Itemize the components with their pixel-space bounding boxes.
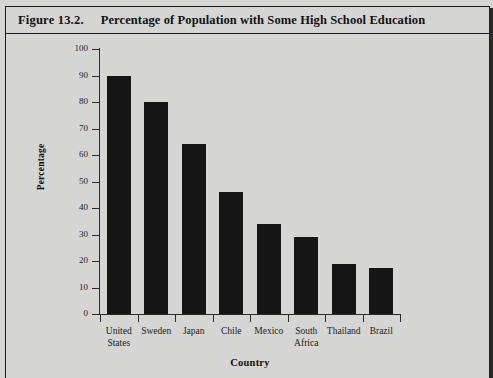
y-tick	[92, 208, 100, 209]
chart-canvas: Percentage 1009080706050403020100 United…	[0, 34, 493, 378]
y-tick-label: 30	[52, 230, 88, 240]
y-tick	[92, 314, 100, 315]
x-tick	[400, 315, 401, 322]
y-tick-label-text: 20	[54, 256, 88, 265]
y-tick-label-text: 30	[54, 230, 88, 239]
y-tick-label: 20	[52, 256, 88, 266]
bar	[182, 144, 206, 314]
figure-number: Figure 13.2.	[18, 13, 84, 28]
y-tick	[92, 102, 100, 103]
bar	[257, 224, 281, 314]
bar	[144, 102, 168, 314]
y-tick-label-text: 0	[54, 309, 88, 318]
x-tick-label-line: States	[94, 338, 144, 350]
x-tick	[250, 315, 251, 322]
y-tick-label-text: 100	[54, 44, 88, 53]
figure-panel: Figure 13.2. Percentage of Population wi…	[0, 0, 493, 378]
x-tick-label-line: Africa	[282, 338, 332, 350]
x-tick	[288, 315, 289, 322]
bar	[219, 192, 243, 314]
bars-container	[100, 49, 400, 314]
y-tick-label: 80	[52, 97, 88, 107]
x-tick	[138, 315, 139, 322]
x-tick	[213, 315, 214, 322]
y-axis-label: Percentage	[36, 144, 46, 191]
y-tick-label-text: 50	[54, 177, 88, 186]
y-tick	[92, 261, 100, 262]
y-tick-label-text: 10	[54, 283, 88, 292]
x-tick	[100, 315, 101, 322]
y-tick-label-text: 90	[54, 71, 88, 80]
y-tick-label: 10	[52, 283, 88, 293]
y-tick-label-text: 80	[54, 97, 88, 106]
x-tick	[175, 315, 176, 322]
y-tick	[92, 288, 100, 289]
y-tick-label: 50	[52, 177, 88, 187]
y-tick	[92, 155, 100, 156]
bar	[294, 237, 318, 314]
y-tick	[92, 182, 100, 183]
x-axis-label: Country	[100, 357, 400, 368]
y-tick-label: 0	[52, 309, 88, 319]
y-tick-label: 70	[52, 124, 88, 134]
bar	[332, 264, 356, 314]
y-tick-label: 60	[52, 150, 88, 160]
y-tick-label-text: 40	[54, 203, 88, 212]
figure-title: Percentage of Population with Some High …	[101, 13, 425, 28]
y-tick-label: 40	[52, 203, 88, 213]
y-tick	[92, 76, 100, 77]
x-tick	[325, 315, 326, 322]
figure-caption: Figure 13.2. Percentage of Population wi…	[6, 7, 489, 33]
y-tick	[92, 129, 100, 130]
y-tick-label-text: 70	[54, 124, 88, 133]
bar	[369, 268, 393, 314]
x-tick-label: Brazil	[357, 326, 407, 338]
x-tick	[363, 315, 364, 322]
y-tick	[92, 235, 100, 236]
y-tick-label: 90	[52, 71, 88, 81]
bar	[107, 76, 131, 315]
y-tick-label-text: 60	[54, 150, 88, 159]
y-tick	[92, 49, 100, 50]
y-tick-label: 100	[52, 44, 88, 54]
x-tick-label-line: Brazil	[357, 326, 407, 338]
